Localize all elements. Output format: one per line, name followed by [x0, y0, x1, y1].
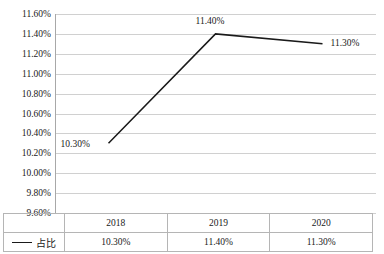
- legend-entry: 占比: [4, 233, 65, 252]
- table-cell: 11.40%: [167, 233, 270, 252]
- y-axis-tick-label: 10.40%: [0, 128, 51, 138]
- data-label: 11.30%: [331, 38, 360, 49]
- y-axis-tick-label: 11.20%: [0, 49, 51, 59]
- y-axis-tick-label: 10.00%: [0, 168, 51, 178]
- table-header-corner: [4, 214, 65, 233]
- series-layer: [55, 14, 376, 213]
- table-header-cell: 2019: [167, 214, 270, 233]
- table-cell: 10.30%: [65, 233, 168, 252]
- table-header-row: 2018 2019 2020: [4, 214, 373, 233]
- y-axis-line: [55, 14, 56, 213]
- y-axis-tick-label: 9.80%: [0, 188, 51, 198]
- y-axis-tick-label: 10.20%: [0, 148, 51, 158]
- table-row: 占比 10.30% 11.40% 11.30%: [4, 233, 373, 252]
- y-axis-tick-label: 10.80%: [0, 89, 51, 99]
- plot-area: 10.30%11.40%11.30%: [55, 14, 376, 213]
- y-axis-tick-label: 10.60%: [0, 109, 51, 119]
- data-label: 10.30%: [61, 139, 90, 150]
- legend-label: 占比: [36, 235, 56, 250]
- line-chart: 11.60%11.40%11.20%11.00%10.80%10.60%10.4…: [0, 0, 384, 254]
- series-line-zhanbi: [109, 34, 323, 143]
- y-axis-tick-label: 11.00%: [0, 69, 51, 79]
- table-header-cell: 2020: [270, 214, 373, 233]
- table-cell: 11.30%: [270, 233, 373, 252]
- data-label: 11.40%: [196, 16, 225, 27]
- y-axis-tick-labels: 11.60%11.40%11.20%11.00%10.80%10.60%10.4…: [0, 14, 51, 213]
- line-marker-icon: [12, 242, 32, 243]
- data-table: 2018 2019 2020 占比 10.30% 11.40% 11.30%: [3, 213, 373, 252]
- table-header-cell: 2018: [65, 214, 168, 233]
- y-axis-tick-label: 11.40%: [0, 29, 51, 39]
- y-axis-tick-label: 11.60%: [0, 9, 51, 19]
